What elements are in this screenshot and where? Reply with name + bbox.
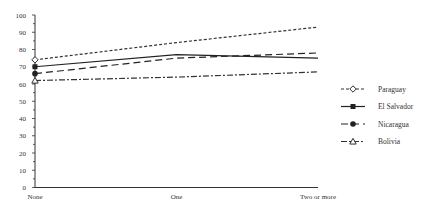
y-tick-label: 50 <box>19 98 27 106</box>
y-tick-label: 90 <box>19 29 27 37</box>
y-tick-label: 40 <box>19 115 27 123</box>
line-chart: 0102030405060708090100 NoneOneTwo or mor… <box>0 0 427 213</box>
legend-label: Bolivia <box>378 137 401 146</box>
legend-item-el-salvador: El Salvador <box>341 102 414 111</box>
square-marker-icon <box>351 104 356 109</box>
x-tick-label: One <box>171 193 183 201</box>
legend-label: Nicaragua <box>378 120 409 129</box>
y-tick-label: 20 <box>19 150 27 158</box>
square-marker-icon <box>33 64 38 69</box>
legend-item-bolivia: Bolivia <box>341 137 401 146</box>
series-el-salvador <box>33 55 319 70</box>
legend-item-paraguay: Paraguay <box>341 85 406 94</box>
legend-label: Paraguay <box>378 85 406 94</box>
series-line <box>35 72 318 81</box>
y-tick-label: 80 <box>19 46 27 54</box>
series-lines <box>32 27 318 83</box>
diamond-marker-icon <box>32 57 38 63</box>
y-tick-label: 0 <box>23 184 27 192</box>
y-tick-label: 30 <box>19 132 27 140</box>
series-bolivia <box>32 72 318 83</box>
x-tick-label: Two or more <box>300 193 336 201</box>
x-axis: NoneOneTwo or more <box>27 188 336 202</box>
circle-marker-icon <box>32 71 38 77</box>
legend-label: El Salvador <box>378 102 414 111</box>
diamond-marker-icon <box>350 86 356 92</box>
series-line <box>35 55 318 67</box>
y-axis: 0102030405060708090100 <box>16 12 36 193</box>
y-tick-label: 70 <box>19 63 27 71</box>
legend-item-nicaragua: Nicaragua <box>341 120 409 129</box>
y-tick-label: 10 <box>19 167 27 175</box>
legend: ParaguayEl SalvadorNicaraguaBolivia <box>341 85 414 147</box>
x-tick-label: None <box>27 193 42 201</box>
y-tick-label: 60 <box>19 81 27 89</box>
y-tick-label: 100 <box>16 12 27 20</box>
circle-marker-icon <box>350 121 356 127</box>
